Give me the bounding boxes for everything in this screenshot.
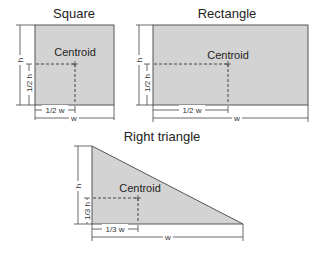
rectangle-half-w-label: 1/2 w bbox=[182, 106, 201, 115]
triangle-w-label: w bbox=[164, 233, 171, 242]
rectangle-w-label: w bbox=[233, 114, 240, 123]
rectangle-title: Rectangle bbox=[198, 6, 257, 21]
triangle-title: Right triangle bbox=[124, 129, 201, 144]
centroid-diagram: Square Centroid h 1/2 h 1/2 w w Rectangl… bbox=[0, 0, 324, 257]
rectangle-centroid-label: Centroid bbox=[207, 49, 249, 61]
rectangle-shape bbox=[153, 25, 308, 105]
rectangle-figure: Rectangle Centroid h 1/2 h 1/2 w w bbox=[135, 6, 308, 123]
square-half-w-label: 1/2 w bbox=[45, 106, 64, 115]
square-centroid-label: Centroid bbox=[54, 46, 96, 58]
right-triangle-figure: Right triangle Centroid h 1/3 h 1/3 w w bbox=[74, 129, 243, 242]
triangle-third-w-label: 1/3 w bbox=[105, 225, 124, 234]
triangle-h-label: h bbox=[74, 184, 83, 188]
square-figure: Square Centroid h 1/2 h 1/2 w w bbox=[16, 6, 114, 123]
square-title: Square bbox=[53, 6, 95, 21]
square-shape bbox=[35, 25, 114, 105]
triangle-shape bbox=[92, 146, 243, 224]
rectangle-h-label: h bbox=[135, 58, 144, 62]
triangle-third-h-label: 1/3 h bbox=[83, 202, 92, 220]
square-half-h-label: 1/2 h bbox=[25, 74, 34, 92]
rectangle-half-h-label: 1/2 h bbox=[143, 74, 152, 92]
square-h-label: h bbox=[16, 58, 25, 62]
square-w-label: w bbox=[70, 114, 77, 123]
triangle-centroid-label: Centroid bbox=[119, 182, 161, 194]
